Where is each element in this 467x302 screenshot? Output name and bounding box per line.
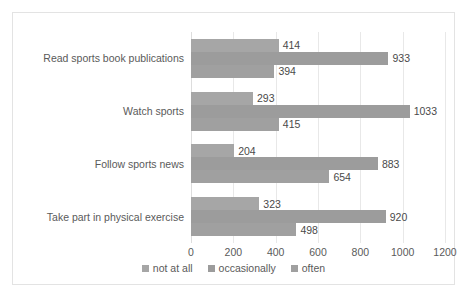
x-tick-label: 600 [309, 246, 327, 258]
bar-row: 933 [191, 52, 445, 65]
legend-item[interactable]: not at all [142, 262, 193, 274]
bar-group: Follow sports news204883654 [191, 144, 445, 183]
legend-item[interactable]: often [291, 262, 325, 274]
bar-row: 323 [191, 197, 445, 210]
x-tick-label: 1200 [433, 246, 456, 258]
category-label: Read sports book publications [43, 52, 184, 64]
bar-value-label: 498 [296, 224, 318, 236]
chart-frame: Read sports book publications414933394Wa… [12, 12, 455, 285]
legend-item[interactable]: occasionally [208, 262, 276, 274]
bar[interactable] [191, 65, 274, 78]
bar[interactable] [191, 210, 386, 223]
legend-label: not at all [153, 262, 193, 274]
category-label: Take part in physical exercise [47, 211, 184, 223]
bar-row: 414 [191, 39, 445, 52]
bar-row: 654 [191, 170, 445, 183]
bar-group: Read sports book publications414933394 [191, 39, 445, 78]
gridline-1200 [445, 32, 446, 243]
bar-value-label: 1033 [410, 105, 437, 117]
legend-swatch-icon [142, 265, 149, 272]
plot-area: Read sports book publications414933394Wa… [191, 32, 445, 243]
bar-row: 920 [191, 210, 445, 223]
bar[interactable] [191, 92, 253, 105]
legend-swatch-icon [291, 265, 298, 272]
bar-value-label: 654 [329, 171, 351, 183]
bar-value-label: 920 [386, 211, 408, 223]
bar-value-label: 293 [253, 92, 275, 104]
category-label: Watch sports [123, 105, 184, 117]
bar-value-label: 933 [388, 52, 410, 64]
bar-group: Take part in physical exercise323920498 [191, 197, 445, 236]
chart-legend: not at alloccasionallyoften [13, 262, 454, 274]
bar[interactable] [191, 197, 259, 210]
bar-value-label: 394 [274, 65, 296, 77]
bar-value-label: 414 [279, 39, 301, 51]
bar-row: 1033 [191, 105, 445, 118]
x-tick-label: 200 [225, 246, 243, 258]
bar[interactable] [191, 39, 279, 52]
bar-row: 883 [191, 157, 445, 170]
bar[interactable] [191, 223, 296, 236]
bar-value-label: 415 [279, 118, 301, 130]
bar[interactable] [191, 118, 279, 131]
x-tick-label: 400 [267, 246, 285, 258]
bar-row: 498 [191, 223, 445, 236]
bar-value-label: 883 [378, 158, 400, 170]
bar-row: 293 [191, 92, 445, 105]
bar[interactable] [191, 170, 329, 183]
bar[interactable] [191, 157, 378, 170]
x-tick-label: 800 [352, 246, 370, 258]
category-label: Follow sports news [95, 158, 184, 170]
x-tick-label: 1000 [391, 246, 414, 258]
x-axis-tick-labels: 020040060080010001200 [191, 246, 445, 262]
bar-value-label: 204 [234, 145, 256, 157]
bar-row: 415 [191, 118, 445, 131]
bar[interactable] [191, 52, 388, 65]
bar-row: 204 [191, 144, 445, 157]
x-tick-label: 0 [188, 246, 194, 258]
bar-value-label: 323 [259, 198, 281, 210]
legend-label: often [302, 262, 325, 274]
bar-row: 394 [191, 65, 445, 78]
legend-label: occasionally [219, 262, 276, 274]
legend-swatch-icon [208, 265, 215, 272]
bar[interactable] [191, 144, 234, 157]
bar-group: Watch sports2931033415 [191, 92, 445, 131]
bar[interactable] [191, 105, 410, 118]
